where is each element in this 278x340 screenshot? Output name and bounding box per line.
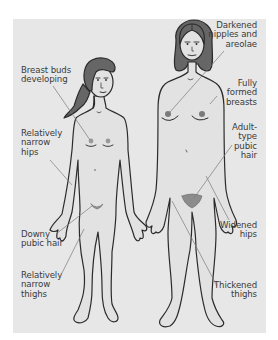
label-line: pubic hair — [21, 239, 63, 248]
label-line: areolae — [208, 40, 257, 49]
label-narrow-hips: Relatively narrow hips — [21, 129, 62, 157]
label-line: hips — [21, 148, 62, 157]
label-line: thighs — [21, 290, 62, 299]
label-downy-pubic-hair: Downy pubic hair — [21, 230, 63, 249]
label-line: developing — [21, 75, 71, 84]
girl-figure — [50, 58, 147, 323]
label-line: hips — [220, 230, 257, 239]
label-line: breasts — [226, 98, 257, 107]
label-formed-breasts: Fully formed breasts — [226, 79, 257, 107]
label-line: hair — [232, 151, 257, 160]
label-breast-buds: Breast buds developing — [21, 66, 71, 85]
label-darkened-nipples: Darkened nipples and areolae — [208, 21, 257, 49]
label-thickened-thighs: Thickened thighs — [214, 281, 257, 300]
label-narrow-thighs: Relatively narrow thighs — [21, 271, 62, 299]
label-widened-hips: Widened hips — [220, 221, 257, 240]
label-line: thighs — [214, 290, 257, 299]
girl-body — [50, 96, 147, 323]
label-adult-pubic-hair: Adult- type pubic hair — [232, 123, 257, 161]
